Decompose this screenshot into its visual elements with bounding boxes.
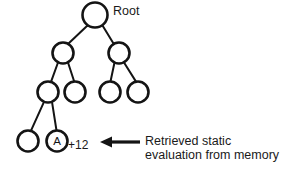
edge-root-n2 bbox=[103, 26, 114, 44]
annotation-arrow bbox=[100, 136, 140, 147]
tree-edges bbox=[31, 26, 136, 131]
node-n5 bbox=[100, 82, 121, 103]
node-n7 bbox=[18, 131, 39, 152]
static-evaluation-value: +12 bbox=[68, 139, 88, 153]
node-n2 bbox=[109, 43, 130, 64]
annotation-text: Retrieved staticevaluation from memory bbox=[145, 134, 279, 163]
annotation-line-2: evaluation from memory bbox=[145, 148, 279, 162]
node-a-label: A bbox=[53, 135, 61, 147]
tree-nodes bbox=[18, 3, 149, 152]
node-n4 bbox=[65, 82, 86, 103]
root-node-label: Root bbox=[113, 4, 139, 18]
node-root bbox=[83, 3, 108, 28]
edge-n2-n6 bbox=[124, 63, 136, 82]
search-tree-figure: A Root +12 Retrieved staticevaluation fr… bbox=[0, 0, 285, 173]
edge-n1-n3 bbox=[51, 63, 58, 82]
node-n1 bbox=[53, 43, 74, 64]
arrow-shaft bbox=[110, 140, 140, 143]
node-n6 bbox=[128, 82, 149, 103]
node-n3 bbox=[38, 82, 59, 103]
edge-n3-n7 bbox=[31, 102, 44, 131]
edge-n2-n5 bbox=[111, 63, 115, 82]
annotation-line-1: Retrieved static bbox=[145, 134, 231, 148]
edge-n3-nA bbox=[52, 102, 57, 131]
edge-root-n1 bbox=[69, 26, 88, 44]
edge-n1-n4 bbox=[68, 63, 74, 82]
